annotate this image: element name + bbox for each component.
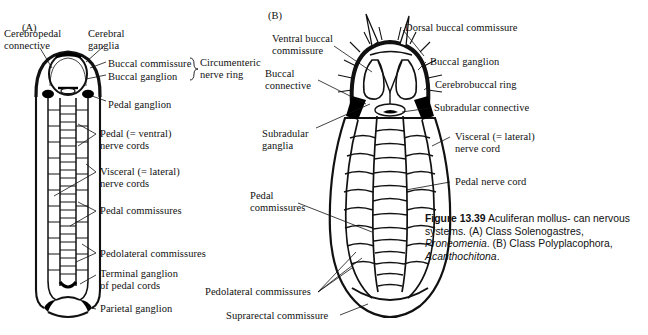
label-circumenteric-nerve-ring: Circumenteric nerve ring (200, 57, 261, 80)
caption-line3-plain: Solenogastres, (515, 226, 584, 237)
pedal-commissures-rungs-a (60, 106, 76, 274)
lateral-cord-curve-right-a (80, 281, 88, 300)
caption-line5-end: . (497, 251, 500, 262)
caption-genus-a: Proneomenia (425, 238, 487, 249)
label-visceral-lateral-nerve-cord: Visceral (= lateral) nerve cord (455, 131, 535, 154)
label-cerebrobuccal-ring: Cerebrobuccal ring (435, 79, 517, 91)
buccal-ganglion-shape-a (61, 88, 75, 93)
cerebral-mass-right-b (414, 96, 434, 120)
terminal-ganglion-shape-a (60, 282, 76, 287)
label-cerebropedal-connective: Cerebropedal connective (4, 28, 61, 51)
panel-b-drawing (298, 14, 450, 317)
label-terminal-ganglion: Terminal ganglion of pedal cords (100, 268, 178, 291)
spicule-left-b (366, 14, 378, 46)
label-cerebral-ganglia: Cerebral ganglia (88, 28, 125, 51)
caption-figure-number: Figure 13.39 (425, 213, 486, 224)
label-pedal-ganglion: Pedal ganglion (108, 99, 171, 111)
pedal-ganglion-left-a (42, 90, 54, 98)
parietal-ganglion-left-a (44, 300, 56, 312)
figure-caption: Figure 13.39 Aculiferan mollus- can nerv… (425, 213, 643, 263)
cerebral-mass-left-b (346, 96, 366, 120)
label-buccal-ganglion: Buccal ganglion (108, 71, 177, 83)
pedolateral-commissures-rungs-a (48, 110, 88, 270)
caption-line4: (B) Class Polyplacophora, (493, 238, 613, 249)
label-pedolateral-commissures-b: Pedolateral commissures (205, 286, 311, 298)
label-suprarectal-commissure: Suprarectal commissure (226, 310, 328, 322)
subradular-ganglia-shape-b (375, 104, 405, 116)
label-visceral-nerve-cords: Visceral (= lateral) nerve cords (100, 166, 180, 189)
label-pedal-commissures: Pedal commissures (100, 205, 182, 217)
parietal-ganglion-right-a (80, 300, 92, 312)
label-pedal-commissures-b: Pedal commissures (250, 190, 305, 213)
label-buccal-connective: Buccal connective (265, 68, 311, 91)
label-subradular-ganglia: Subradular ganglia (262, 128, 309, 151)
pedal-ganglion-right-a (82, 90, 94, 98)
caption-line1: Aculiferan mollus- (488, 213, 571, 224)
label-buccal-ganglion-b: Buccal ganglion (430, 56, 499, 68)
label-ventral-buccal-commissure: Ventral buccal commissure (272, 33, 333, 56)
caption-line3-end: . (487, 238, 490, 249)
posterior-body-edge-a (48, 312, 88, 317)
parietal-commissure-a (56, 297, 80, 300)
lateral-cord-curve-left-a (48, 281, 56, 300)
label-parietal-ganglion: Parietal ganglion (100, 303, 172, 315)
label-dorsal-buccal-commissure: Dorsal buccal commissure (405, 22, 518, 34)
panel-b-letter: (B) (268, 10, 282, 21)
caption-genus-b: Acanthochitona (425, 251, 497, 262)
label-pedal-nerve-cord: Pedal nerve cord (455, 176, 526, 188)
label-pedal-nerve-cords: Pedal (= ventral) nerve cords (100, 128, 172, 151)
label-buccal-commissure: Buccal commissure (108, 58, 191, 70)
label-subradular-connective: Subradular connective (434, 102, 529, 114)
label-pedolateral-commissures: Pedolateral commissures (100, 248, 206, 260)
